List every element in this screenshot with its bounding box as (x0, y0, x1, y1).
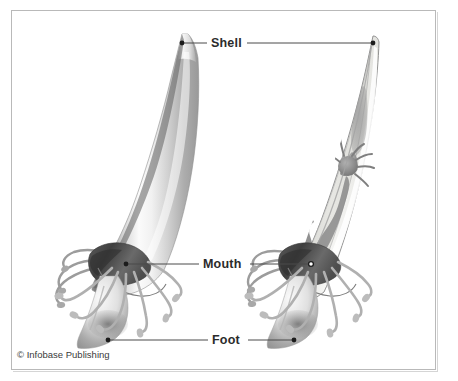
left-foot-shadow (88, 310, 128, 338)
right-specimen (244, 36, 379, 349)
label-foot: Foot (208, 333, 244, 347)
copyright-notice: © Infobase Publishing (17, 349, 110, 360)
right-foot-shadow (278, 310, 318, 338)
label-shell: Shell (207, 36, 246, 50)
left-specimen (54, 34, 199, 349)
anatomy-diagram (0, 0, 458, 381)
dot-mouth-left (124, 262, 129, 267)
dot-mouth-right (309, 262, 314, 267)
dot-foot-left (106, 338, 111, 343)
figure-root: Shell Mouth Foot © Infobase Publishing (0, 0, 458, 381)
dot-shell-right (371, 41, 376, 46)
label-mouth: Mouth (199, 257, 245, 271)
dot-foot-right (292, 338, 297, 343)
dot-shell-left (180, 41, 185, 46)
